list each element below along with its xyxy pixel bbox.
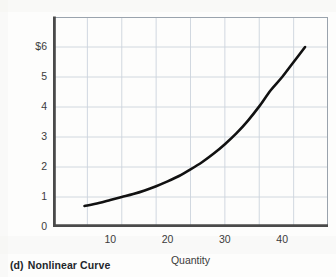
line-chart (53, 17, 328, 227)
x-tick-label: 20 (153, 234, 183, 245)
caption-text: Nonlinear Curve (28, 259, 111, 271)
y-tick-label: 3 (21, 131, 47, 142)
y-tick-label: 2 (21, 161, 47, 172)
y-tick-label: $6 (21, 41, 47, 52)
x-tick-label: 30 (210, 234, 240, 245)
y-tick-label: 5 (21, 71, 47, 82)
grid-lines (53, 17, 328, 227)
figure-nonlinear-curve: 012345$6 10203040 Price (per pen) Quanti… (0, 0, 336, 277)
plot-area (53, 17, 328, 227)
data-series-layer (85, 47, 306, 206)
y-tick-label: 0 (21, 221, 47, 232)
x-tick-label: 10 (95, 234, 125, 245)
data-curve (85, 47, 306, 206)
caption-index: (d) (10, 259, 24, 271)
y-tick-label: 4 (21, 101, 47, 112)
x-tick-label: 40 (267, 234, 297, 245)
y-tick-label: 1 (21, 191, 47, 202)
figure-caption: (d)Nonlinear Curve (10, 259, 110, 271)
